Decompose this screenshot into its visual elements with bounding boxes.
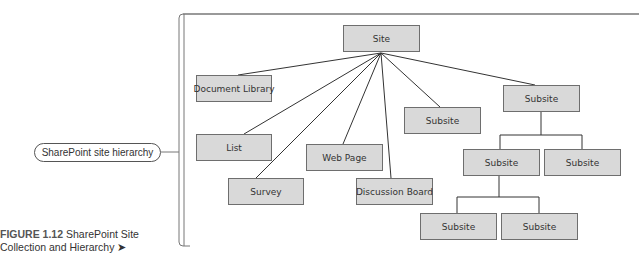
node-subsite-2a-ii: Subsite xyxy=(501,213,578,240)
node-subsite-2a-i: Subsite xyxy=(420,213,497,240)
node-subsite-2b: Subsite xyxy=(544,149,621,176)
node-site: Site xyxy=(343,25,420,52)
node-subsite-2: Subsite xyxy=(503,85,580,112)
side-label-pill: SharePoint site hierarchy xyxy=(34,143,161,162)
node-discussion-board: Discussion Board xyxy=(356,178,433,205)
figure-caption: FIGURE 1.12 SharePoint Site Collection a… xyxy=(0,228,139,254)
node-survey: Survey xyxy=(228,178,304,205)
node-subsite-2a: Subsite xyxy=(463,149,540,176)
node-subsite-1: Subsite xyxy=(404,107,481,134)
caption-arrow-icon: ➤ xyxy=(117,241,126,253)
figure-number: FIGURE 1.12 xyxy=(0,228,63,240)
caption-line1: SharePoint Site xyxy=(63,228,139,240)
node-document-library: Document Library xyxy=(196,75,272,102)
node-web-page: Web Page xyxy=(306,144,383,171)
caption-line2: Collection and Hierarchy xyxy=(0,241,114,253)
node-list: List xyxy=(196,134,272,161)
